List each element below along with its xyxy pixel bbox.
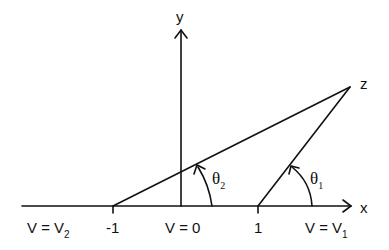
region-left-prefix: V = V xyxy=(27,219,64,236)
region-middle-label: V = 0 xyxy=(165,220,200,235)
region-left-label: V = V2 xyxy=(27,220,70,240)
diagram-lines xyxy=(0,0,389,250)
y-axis-label: y xyxy=(176,9,184,24)
theta1-symbol: θ xyxy=(310,169,318,188)
tick-label-minus-one: -1 xyxy=(106,220,119,235)
x-axis-label: x xyxy=(360,200,368,215)
theta1-label: θ1 xyxy=(310,170,323,191)
region-right-subscript: 1 xyxy=(342,229,348,240)
region-left-subscript: 2 xyxy=(64,229,70,240)
theta2-arc xyxy=(198,167,212,206)
region-right-prefix: V = V xyxy=(305,219,342,236)
region-right-label: V = V1 xyxy=(305,220,348,240)
theta1-arc xyxy=(292,167,312,206)
point-z-label: z xyxy=(360,76,368,91)
theta1-subscript: 1 xyxy=(318,180,323,191)
theta2-label: θ2 xyxy=(212,170,225,191)
theta2-symbol: θ xyxy=(212,169,220,188)
diagram-canvas: y x z -1 1 V = V2 V = 0 V = V1 θ2 θ1 xyxy=(0,0,389,250)
theta2-subscript: 2 xyxy=(220,180,225,191)
tick-label-one: 1 xyxy=(254,220,262,235)
line-one-to-z xyxy=(258,87,350,206)
